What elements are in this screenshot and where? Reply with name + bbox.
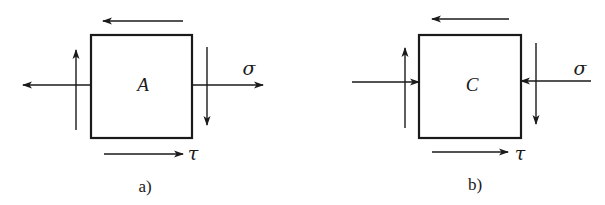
caption-b: b) <box>468 175 482 194</box>
sigma-label-b: σ <box>574 57 588 79</box>
sigma-label-a: σ <box>243 57 257 79</box>
stress-element-figure: A σ τ a) C σ τ b) <box>0 0 605 205</box>
element-label-c: C <box>466 74 479 95</box>
panel-a: A σ τ a) <box>23 21 263 196</box>
panel-b: C σ τ b) <box>352 19 591 194</box>
caption-a: a) <box>138 177 151 196</box>
element-label-a: A <box>135 74 149 95</box>
tau-label-a: τ <box>188 142 199 164</box>
tau-label-b: τ <box>515 142 526 164</box>
